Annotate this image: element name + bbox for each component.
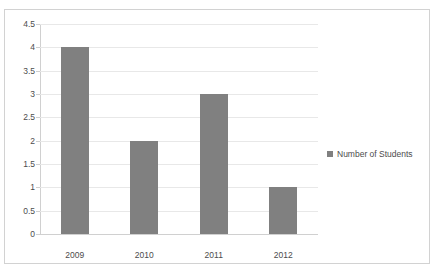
y-axis-label: 1: [30, 183, 35, 192]
x-axis-tick-labels: 2009201020112012: [40, 235, 318, 255]
gridline: [40, 24, 318, 25]
y-axis-label: 0: [30, 230, 35, 239]
y-axis-label: 3.5: [23, 66, 35, 75]
legend-swatch-icon: [327, 151, 333, 157]
y-axis-label: 0.5: [23, 206, 35, 215]
chart-legend: Number of Students: [327, 150, 413, 159]
chart-container: 00.511.522.533.544.5 2009201020112012 Nu…: [4, 9, 430, 264]
y-axis-tick: [36, 164, 40, 165]
plot-area: 00.511.522.533.544.5: [40, 24, 318, 234]
y-axis-label: 2.5: [23, 113, 35, 122]
y-axis-tick: [36, 94, 40, 95]
bar-2010: [130, 141, 158, 234]
y-axis-tick: [36, 47, 40, 48]
y-axis-label: 2: [30, 136, 35, 145]
y-axis-label: 3: [30, 90, 35, 99]
y-axis-tick: [36, 141, 40, 142]
bar-2011: [200, 94, 228, 234]
y-axis-tick: [36, 24, 40, 25]
x-axis-label-2009: 2009: [65, 251, 84, 260]
y-axis-label: 4: [30, 43, 35, 52]
y-axis-label: 1.5: [23, 160, 35, 169]
bar-2012: [269, 187, 297, 234]
bar-2009: [61, 47, 89, 234]
x-axis-label-2012: 2012: [274, 251, 293, 260]
x-axis-label-2010: 2010: [135, 251, 154, 260]
y-axis-tick: [36, 187, 40, 188]
x-axis-label-2011: 2011: [205, 251, 223, 260]
y-axis-tick: [36, 71, 40, 72]
y-axis-tick: [36, 211, 40, 212]
y-axis-label: 4.5: [23, 20, 35, 29]
y-axis-tick: [36, 117, 40, 118]
legend-label-number-of-students: Number of Students: [337, 150, 413, 159]
